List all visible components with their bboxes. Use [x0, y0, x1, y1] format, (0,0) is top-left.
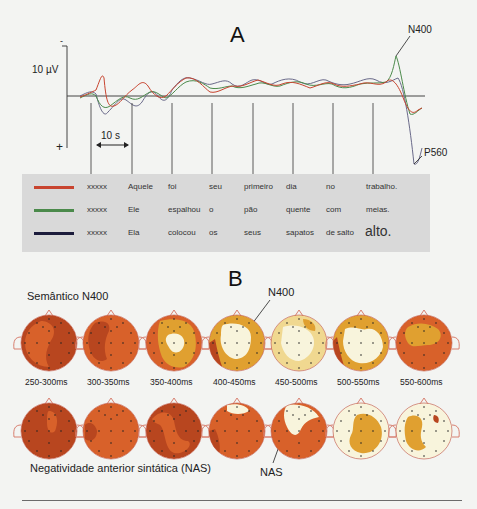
- electrode-dot: [193, 420, 195, 422]
- electrode-dot: [24, 430, 26, 432]
- electrode-dot: [354, 326, 356, 328]
- electrode-dot: [173, 342, 175, 344]
- electrode-dot: [122, 410, 124, 412]
- ear-outline-left: [264, 425, 271, 437]
- ear-outline-left: [14, 337, 21, 349]
- electrode-dot: [153, 440, 155, 442]
- electrode-dot: [110, 455, 112, 457]
- electrode-dot: [68, 352, 70, 354]
- time-window-label: 300-350ms: [87, 377, 130, 387]
- electrode-dot: [161, 430, 163, 432]
- electrode-dot: [236, 367, 238, 369]
- electrode-dot: [68, 332, 70, 334]
- electrode-dot: [286, 342, 288, 344]
- electrode-dot: [173, 367, 175, 369]
- electrode-dot: [340, 420, 342, 422]
- electrode-dot: [348, 430, 350, 432]
- electrode-dot: [36, 342, 38, 344]
- electrode-dot: [298, 430, 300, 432]
- electrode-dot: [153, 420, 155, 422]
- electrode-dot: [256, 332, 258, 334]
- electrode-dot: [48, 430, 50, 432]
- electrode-dot: [340, 352, 342, 354]
- electrode-dot: [248, 450, 250, 452]
- electrode-dot: [360, 318, 362, 320]
- electrode-dot: [90, 352, 92, 354]
- electrode-dot: [236, 354, 238, 356]
- electrode-dot: [435, 450, 437, 452]
- electrode-dot: [216, 352, 218, 354]
- nas-topo-annotation: NAS: [260, 466, 283, 478]
- ear-outline-left: [76, 425, 83, 437]
- electrode-dot: [423, 455, 425, 457]
- ear-outline-left: [14, 425, 21, 437]
- electrode-dot: [360, 354, 362, 356]
- electrode-dot: [298, 455, 300, 457]
- ear-outline-left: [326, 425, 333, 437]
- electrode-dot: [242, 414, 244, 416]
- electrode-dot: [384, 342, 386, 344]
- electrode-dot: [110, 330, 112, 332]
- electrode-dot: [298, 406, 300, 408]
- electrode-dot: [236, 442, 238, 444]
- ear-outline-left: [326, 337, 333, 349]
- electrode-dot: [42, 414, 44, 416]
- electrode-dot: [318, 420, 320, 422]
- electrode-dot: [161, 450, 163, 452]
- electrode-dot: [54, 414, 56, 416]
- electrode-dot: [443, 332, 445, 334]
- electrode-dot: [248, 322, 250, 324]
- electrode-dot: [286, 410, 288, 412]
- electrode-dot: [298, 342, 300, 344]
- electrode-dot: [197, 342, 199, 344]
- electrode-dot: [286, 322, 288, 324]
- electrode-dot: [236, 318, 238, 320]
- electrode-dot: [366, 414, 368, 416]
- electrode-dot: [380, 420, 382, 422]
- electrode-dot: [185, 322, 187, 324]
- electrode-dot: [122, 322, 124, 324]
- electrode-dot: [167, 326, 169, 328]
- electrode-dot: [236, 330, 238, 332]
- electrode-dot: [411, 430, 413, 432]
- electrode-dot: [110, 406, 112, 408]
- electrode-dot: [173, 318, 175, 320]
- electrode-dot: [443, 440, 445, 442]
- electrode-dot: [372, 450, 374, 452]
- electrode-dot: [230, 414, 232, 416]
- electrode-dot: [60, 342, 62, 344]
- electrode-dot: [173, 442, 175, 444]
- electrode-dot: [278, 420, 280, 422]
- time-window-label: 350-400ms: [150, 377, 193, 387]
- electrode-dot: [236, 342, 238, 344]
- time-window-label: 250-300ms: [25, 377, 68, 387]
- electrode-dot: [134, 342, 136, 344]
- electrode-dot: [286, 430, 288, 432]
- electrode-dot: [98, 410, 100, 412]
- n400-topo-map: [387, 308, 461, 374]
- electrode-dot: [242, 326, 244, 328]
- electrode-dot: [236, 418, 238, 420]
- electrode-dot: [298, 318, 300, 320]
- electrode-dot: [354, 414, 356, 416]
- electrode-dot: [28, 332, 30, 334]
- electrode-dot: [236, 430, 238, 432]
- electrode-dot: [256, 352, 258, 354]
- electrode-dot: [36, 362, 38, 364]
- electrode-dot: [161, 322, 163, 324]
- electrode-dot: [411, 342, 413, 344]
- electrode-dot: [185, 450, 187, 452]
- electrode-dot: [197, 430, 199, 432]
- electrode-dot: [161, 362, 163, 364]
- electrode-dot: [224, 342, 226, 344]
- electrode-dot: [372, 410, 374, 412]
- electrode-dot: [298, 330, 300, 332]
- electrode-dot: [130, 420, 132, 422]
- time-window-label: 550-600ms: [400, 377, 443, 387]
- electrode-dot: [28, 352, 30, 354]
- electrode-dot: [122, 342, 124, 344]
- electrode-dot: [360, 342, 362, 344]
- electrode-dot: [167, 414, 169, 416]
- electrode-dot: [48, 455, 50, 457]
- electrode-dot: [417, 414, 419, 416]
